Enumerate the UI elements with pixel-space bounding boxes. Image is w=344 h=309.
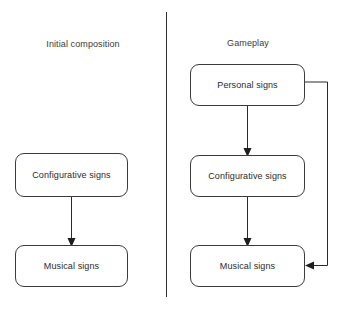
node-initial-configurative-signs[interactable]: Configurative signs — [15, 153, 128, 197]
diagram-canvas: Initial composition Gameplay Configurati… — [0, 0, 344, 309]
node-gameplay-musical-signs[interactable]: Musical signs — [190, 245, 305, 287]
node-label: Personal signs — [217, 80, 277, 90]
edge-configurative-to-musical — [244, 197, 252, 247]
edge-personal-feedback-to-musical — [305, 82, 328, 270]
edge-personal-to-configurative — [244, 106, 252, 157]
panel-title-initial-composition: Initial composition — [18, 38, 148, 50]
node-label: Musical signs — [44, 261, 99, 271]
node-label: Configurative signs — [32, 170, 110, 180]
node-gameplay-configurative-signs[interactable]: Configurative signs — [190, 155, 305, 197]
edge-left-configurative-to-musical — [68, 197, 76, 247]
node-label: Configurative signs — [208, 171, 286, 181]
panel-divider — [166, 12, 167, 297]
node-initial-musical-signs[interactable]: Musical signs — [15, 245, 128, 287]
panel-title-gameplay: Gameplay — [192, 37, 304, 49]
node-gameplay-personal-signs[interactable]: Personal signs — [190, 64, 305, 106]
node-label: Musical signs — [220, 261, 275, 271]
